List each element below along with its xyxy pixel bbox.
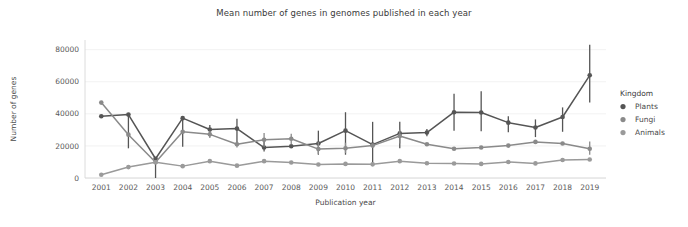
x-tick-label-2007: 2007 (255, 183, 274, 192)
legend-title: Kingdom (620, 89, 653, 98)
data-point (208, 159, 213, 164)
data-point (397, 159, 402, 164)
x-tick-label-2005: 2005 (200, 183, 219, 192)
legend: KingdomPlantsFungiAnimals (620, 89, 665, 137)
data-point (289, 160, 294, 165)
chart-figure: Mean number of genes in genomes publishe… (0, 0, 688, 227)
data-point (425, 130, 430, 135)
y-tick-label-0: 0 (74, 174, 79, 183)
data-point (506, 120, 511, 125)
data-point (452, 146, 457, 151)
data-point (533, 125, 538, 130)
legend-label-animals[interactable]: Animals (635, 128, 665, 137)
y-tick-label-60000: 60000 (55, 77, 79, 86)
data-series-group (99, 45, 592, 178)
data-point (316, 162, 321, 167)
data-point (343, 146, 348, 151)
data-point (452, 161, 457, 166)
data-point (99, 100, 104, 105)
data-point (208, 132, 213, 137)
x-tick-label-2011: 2011 (363, 183, 382, 192)
x-tick-label-2009: 2009 (309, 183, 328, 192)
data-point (397, 134, 402, 139)
x-tick-label-2006: 2006 (227, 183, 246, 192)
data-point (316, 147, 321, 152)
data-point (587, 157, 592, 162)
data-point (425, 161, 430, 166)
data-point (533, 161, 538, 166)
x-tick-label-2008: 2008 (282, 183, 301, 192)
legend-swatch-fungi[interactable] (620, 117, 625, 122)
data-point (180, 164, 185, 169)
data-point (235, 163, 240, 168)
data-point (533, 140, 538, 145)
data-point (452, 110, 457, 115)
x-tick-label-2004: 2004 (173, 183, 192, 192)
data-point (262, 138, 267, 143)
x-tick-label-2016: 2016 (499, 183, 518, 192)
data-point (343, 162, 348, 167)
data-point (506, 143, 511, 148)
data-point (479, 110, 484, 115)
x-axis-title: Publication year (315, 198, 376, 207)
series-plants (99, 45, 592, 178)
data-point (587, 146, 592, 151)
data-point (235, 126, 240, 131)
data-point (479, 145, 484, 150)
data-point (99, 114, 104, 119)
y-tick-label-80000: 80000 (55, 45, 79, 54)
legend-swatch-plants[interactable] (620, 104, 625, 109)
data-point (425, 142, 430, 147)
data-point (560, 141, 565, 146)
data-point (126, 112, 131, 117)
x-tick-label-2013: 2013 (417, 183, 436, 192)
chart-plot-area: 020000400006000080000 200120022003200420… (0, 0, 688, 227)
legend-label-plants[interactable]: Plants (635, 102, 658, 111)
y-axis-tick-labels: 020000400006000080000 (55, 45, 79, 182)
x-tick-label-2010: 2010 (336, 183, 355, 192)
x-tick-label-2018: 2018 (553, 183, 572, 192)
data-point (506, 160, 511, 165)
data-point (153, 160, 158, 165)
data-point (180, 116, 185, 121)
data-point (289, 136, 294, 141)
legend-label-fungi[interactable]: Fungi (635, 115, 655, 124)
x-axis-tick-labels: 2001200220032004200520062007200820092010… (92, 183, 600, 192)
data-point (479, 162, 484, 167)
data-point (560, 158, 565, 163)
data-point (99, 172, 104, 177)
data-point (262, 159, 267, 164)
y-tick-label-20000: 20000 (55, 142, 79, 151)
data-point (126, 132, 131, 137)
data-point (370, 143, 375, 148)
data-point (370, 162, 375, 167)
data-point (126, 165, 131, 170)
x-tick-label-2019: 2019 (580, 183, 599, 192)
x-tick-label-2015: 2015 (472, 183, 491, 192)
x-tick-label-2014: 2014 (444, 183, 463, 192)
x-tick-label-2002: 2002 (119, 183, 138, 192)
data-point (289, 144, 294, 149)
legend-swatch-animals[interactable] (620, 130, 625, 135)
data-point (235, 142, 240, 147)
data-point (587, 73, 592, 78)
series-animals (99, 157, 592, 177)
x-tick-label-2001: 2001 (92, 183, 111, 192)
y-axis-title: Number of genes (9, 77, 18, 142)
data-point (560, 115, 565, 120)
data-point (180, 129, 185, 134)
x-tick-label-2017: 2017 (526, 183, 545, 192)
axis-lines-group (85, 40, 606, 178)
y-tick-label-40000: 40000 (55, 109, 79, 118)
x-tick-label-2012: 2012 (390, 183, 409, 192)
x-tick-label-2003: 2003 (146, 183, 165, 192)
data-point (343, 128, 348, 133)
